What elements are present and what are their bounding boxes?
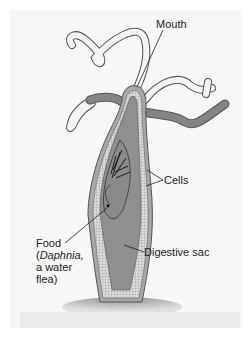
label-food-line4: flea)	[36, 273, 84, 285]
hydra-illustration	[0, 0, 252, 339]
label-food-line2: (Daphnia,	[36, 249, 84, 261]
label-food: Food (Daphnia, a water flea)	[36, 237, 84, 285]
label-mouth: Mouth	[156, 18, 187, 30]
tentacles-sectioned	[90, 97, 225, 124]
label-digestive-sac: Digestive sac	[144, 246, 209, 258]
label-food-line1: Food	[36, 237, 84, 249]
label-cells: Cells	[164, 174, 188, 186]
label-food-line3: a water	[36, 261, 84, 273]
label-food-species: Daphnia,	[40, 249, 84, 261]
